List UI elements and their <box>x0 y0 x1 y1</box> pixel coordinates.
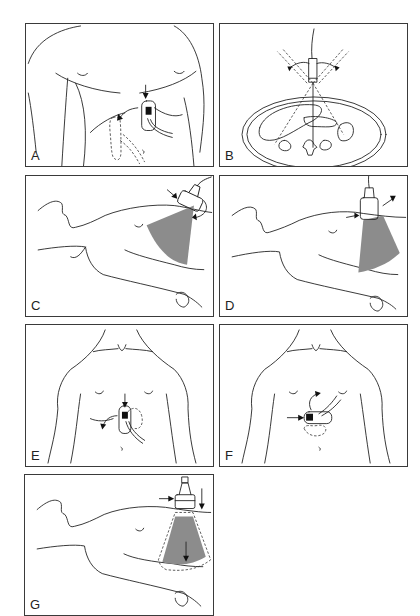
lateral-supine-probe-compression-illustration <box>25 475 213 615</box>
torso-subcostal-illustration <box>26 24 213 166</box>
lateral-supine-probe-rotation-illustration <box>26 176 213 316</box>
torso-transverse-rotation-illustration <box>220 325 407 466</box>
panel-e: E <box>25 324 214 467</box>
panel-c: C <box>25 175 214 317</box>
panel-b: B <box>219 23 408 167</box>
panel-label-e: E <box>31 449 40 462</box>
lateral-supine-probe-tilt-illustration <box>220 176 407 316</box>
panel-label-f: F <box>225 449 233 462</box>
panel-label-g: G <box>30 598 40 611</box>
torso-subcostal-rotation-illustration <box>26 325 213 466</box>
panel-f: F <box>219 324 408 467</box>
panel-a: A <box>25 23 214 167</box>
panel-label-b: B <box>225 149 234 162</box>
panel-label-c: C <box>31 299 40 312</box>
panel-d: D <box>219 175 408 317</box>
panel-label-a: A <box>31 149 40 162</box>
axial-cross-section-illustration <box>220 24 407 166</box>
panel-label-d: D <box>225 299 234 312</box>
panel-g: G <box>24 474 214 616</box>
